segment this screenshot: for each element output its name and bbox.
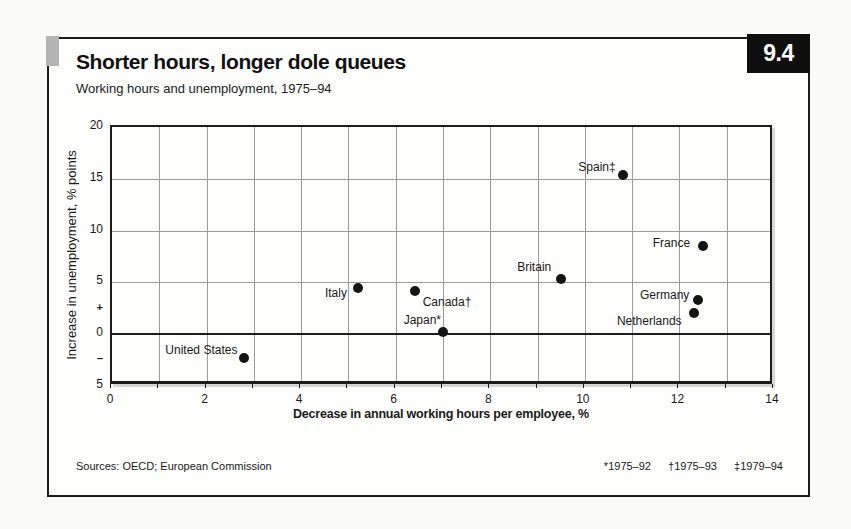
plot-area: United StatesItalyCanada†Japan*BritainSp… xyxy=(110,125,772,384)
figure-card: 9.4 Shorter hours, longer dole queues Wo… xyxy=(47,37,810,497)
y-tick-label: + xyxy=(49,301,103,313)
x-minor-tick xyxy=(299,384,300,388)
page: 9.4 Shorter hours, longer dole queues Wo… xyxy=(0,0,851,529)
x-minor-tick xyxy=(157,384,158,388)
footnote-asterisk: *1975–92 xyxy=(604,460,651,472)
horizontal-gridline xyxy=(112,282,770,283)
y-tick-label: 5 xyxy=(49,273,103,287)
x-tick-label: 2 xyxy=(201,392,208,406)
x-tick-label: 8 xyxy=(485,392,492,406)
data-point-label-britain: Britain xyxy=(517,260,551,274)
data-point-italy xyxy=(353,283,363,293)
x-minor-tick xyxy=(725,384,726,388)
y-tick-label: – xyxy=(49,352,103,364)
vertical-gridline xyxy=(301,127,302,381)
y-tick-label: 5 xyxy=(49,377,103,391)
x-tick-label: 14 xyxy=(765,392,778,406)
data-point-label-germany: Germany xyxy=(640,288,689,302)
x-minor-tick xyxy=(772,384,773,388)
y-tick-label: 15 xyxy=(49,170,103,184)
horizontal-gridline xyxy=(112,179,770,180)
y-tick-label: 20 xyxy=(49,118,103,132)
footnotes: *1975–92 †1975–93 ‡1979–94 xyxy=(604,460,783,472)
horizontal-gridline xyxy=(112,231,770,232)
chart: Increase in unemployment, % points Unite… xyxy=(49,39,812,499)
vertical-gridline xyxy=(490,127,491,381)
x-tick-label: 10 xyxy=(576,392,589,406)
data-point-france xyxy=(698,241,708,251)
vertical-gridline xyxy=(443,127,444,381)
data-point-label-italy: Italy xyxy=(325,286,347,300)
x-minor-tick xyxy=(488,384,489,388)
vertical-gridline xyxy=(159,127,160,381)
footnote-dagger: †1975–93 xyxy=(668,460,717,472)
x-tick-label: 0 xyxy=(107,392,114,406)
data-point-label-netherlands: Netherlands xyxy=(617,314,682,328)
x-minor-tick xyxy=(677,384,678,388)
footnote-double-dagger: ‡1979–94 xyxy=(734,460,783,472)
x-tick-label: 4 xyxy=(296,392,303,406)
data-point-netherlands xyxy=(689,308,699,318)
x-axis-title: Decrease in annual working hours per emp… xyxy=(293,407,589,421)
x-minor-tick xyxy=(583,384,584,388)
x-tick-label: 6 xyxy=(390,392,397,406)
x-minor-tick xyxy=(205,384,206,388)
y-tick-label: 0 xyxy=(49,325,103,339)
x-tick-label: 12 xyxy=(671,392,684,406)
data-point-label-japan: Japan* xyxy=(404,313,441,327)
vertical-gridline xyxy=(396,127,397,381)
x-minor-tick xyxy=(110,384,111,388)
vertical-gridline xyxy=(679,127,680,381)
vertical-gridline xyxy=(727,127,728,381)
data-point-germany xyxy=(693,295,703,305)
y-tick-label: 10 xyxy=(49,222,103,236)
data-point-canada xyxy=(410,286,420,296)
data-point-britain xyxy=(556,274,566,284)
x-minor-tick xyxy=(394,384,395,388)
data-point-label-canada: Canada† xyxy=(423,295,472,309)
data-point-label-france: France xyxy=(653,236,690,250)
x-minor-tick xyxy=(346,384,347,388)
data-point-united-states xyxy=(239,353,249,363)
vertical-gridline xyxy=(254,127,255,381)
vertical-gridline xyxy=(348,127,349,381)
x-minor-tick xyxy=(630,384,631,388)
vertical-gridline xyxy=(632,127,633,381)
data-point-spain xyxy=(618,170,628,180)
x-minor-tick xyxy=(536,384,537,388)
data-point-label-spain: Spain‡ xyxy=(578,160,615,174)
x-minor-tick xyxy=(441,384,442,388)
sources-note: Sources: OECD; European Commission xyxy=(76,460,272,472)
x-minor-tick xyxy=(252,384,253,388)
vertical-gridline xyxy=(538,127,539,381)
data-point-japan xyxy=(438,327,448,337)
data-point-label-united-states: United States xyxy=(165,343,237,357)
